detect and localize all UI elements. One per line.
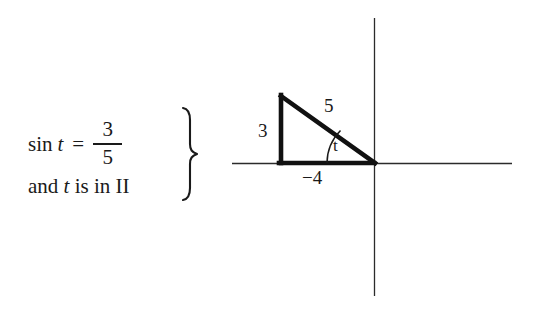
figure-root: sin t = 3 5 and t is in II: [0, 0, 534, 317]
sine-function-name: sin: [28, 134, 53, 155]
given-conditions-block: sin t = 3 5 and t is in II: [24, 104, 204, 204]
quadrant-condition: and t is in II: [28, 176, 130, 197]
equals-sign: =: [72, 134, 84, 155]
angle-label: t: [333, 137, 338, 154]
sine-argument-variable: t: [58, 134, 64, 155]
condition-leading-word: and: [28, 174, 58, 198]
quadrant-numeral: II: [116, 174, 130, 198]
fraction-denominator: 5: [102, 146, 113, 168]
fraction-numerator: 3: [102, 119, 113, 141]
right-curly-brace: [180, 106, 206, 202]
opposite-leg-label: 3: [258, 121, 268, 140]
fraction-three-fifths: 3 5: [93, 119, 122, 168]
adjacent-leg-label: −4: [302, 168, 322, 187]
hypotenuse-label: 5: [324, 96, 334, 115]
condition-tail-words: is in: [75, 174, 111, 198]
sine-equation: sin t = 3 5: [28, 120, 122, 169]
